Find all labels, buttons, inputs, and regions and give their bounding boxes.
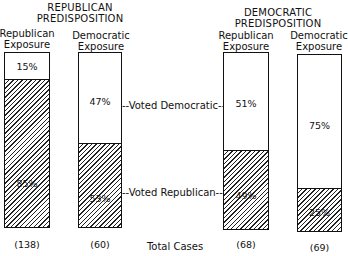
segment-voted-republican: [5, 79, 49, 227]
group-title-line1: DEMOCRATIC: [218, 7, 338, 18]
bar-rep-pred-rep-exposure: 15% 85%: [4, 52, 50, 228]
total-cases-bar-2: (60): [78, 239, 122, 250]
bar-dem-pred-dem-exposure: 75% 25%: [297, 54, 342, 232]
total-cases-label: Total Cases: [140, 241, 210, 252]
exposure-label-3: Republican Exposure: [217, 30, 275, 52]
pct-voted-democratic: 51%: [224, 98, 268, 109]
label-voted-democratic: --Voted Democratic--: [122, 100, 225, 111]
group-title-democratic: DEMOCRATIC PREDISPOSITION: [218, 7, 338, 29]
segment-voted-republican: [79, 143, 121, 227]
label-line: Exposure: [72, 41, 130, 52]
exposure-label-2: Democratic Exposure: [72, 30, 130, 52]
pct-voted-democratic: 47%: [79, 96, 121, 107]
total-cases-bar-1: (138): [4, 239, 50, 250]
label-voted-republican: --Voted Republican--: [122, 187, 223, 198]
bar-rep-pred-dem-exposure: 47% 53%: [78, 52, 122, 228]
group-title-line2: PREDISPOSITION: [218, 18, 338, 29]
group-title-line2: PREDISPOSITION: [20, 13, 140, 24]
pct-voted-democratic: 15%: [5, 61, 49, 72]
bar-dem-pred-rep-exposure: 51% 49%: [223, 52, 269, 230]
label-line: Exposure: [0, 39, 56, 50]
group-title-line1: REPUBLICAN: [20, 2, 140, 13]
pct-voted-republican: 49%: [224, 190, 268, 201]
pct-voted-democratic: 75%: [298, 120, 341, 131]
label-line: Exposure: [217, 41, 275, 52]
pct-voted-republican: 25%: [298, 207, 341, 218]
exposure-label-1: Republican Exposure: [0, 28, 56, 50]
pct-voted-republican: 85%: [5, 178, 49, 189]
pct-voted-republican: 53%: [79, 193, 121, 204]
label-line: Republican: [0, 28, 56, 39]
group-title-republican: REPUBLICAN PREDISPOSITION: [20, 2, 140, 24]
label-line: Democratic: [290, 30, 348, 41]
exposure-label-4: Democratic Exposure: [290, 30, 348, 52]
total-cases-bar-4: (69): [297, 242, 342, 253]
label-line: Democratic: [72, 30, 130, 41]
label-line: Republican: [217, 30, 275, 41]
label-line: Exposure: [290, 41, 348, 52]
total-cases-bar-3: (68): [223, 239, 269, 250]
